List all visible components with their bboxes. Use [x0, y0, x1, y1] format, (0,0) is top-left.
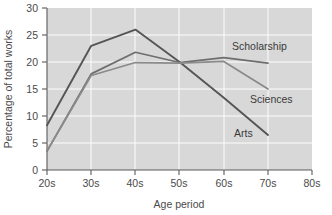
x-axis-title: Age period: [154, 198, 205, 210]
y-axis-title: Percentage of total works: [2, 30, 14, 148]
x-tick-label-20s: 20s: [39, 177, 56, 189]
y-tick-label-25: 25: [26, 29, 38, 41]
x-tick-label-70s: 70s: [260, 177, 277, 189]
series-label-arts: Arts: [234, 127, 253, 139]
y-axis-ticks: [42, 8, 47, 170]
y-tick-label-10: 10: [26, 110, 38, 122]
x-axis-ticks: [47, 170, 312, 175]
series-label-sciences: Sciences: [250, 93, 293, 105]
line-chart: 30 25 20 15 10 5 0 20s 30s 40s 50s 60s 7…: [0, 0, 332, 215]
y-tick-label-20: 20: [26, 56, 38, 68]
y-tick-label-30: 30: [26, 2, 38, 14]
x-tick-label-40s: 40s: [127, 177, 144, 189]
y-tick-label-0: 0: [32, 164, 38, 176]
series-label-scholarship: Scholarship: [232, 40, 287, 52]
x-tick-label-80s: 80s: [304, 177, 321, 189]
chart-container: 30 25 20 15 10 5 0 20s 30s 40s 50s 60s 7…: [0, 0, 332, 215]
y-tick-label-5: 5: [32, 137, 38, 149]
x-tick-label-30s: 30s: [83, 177, 100, 189]
x-tick-label-50s: 50s: [171, 177, 188, 189]
x-tick-label-60s: 60s: [216, 177, 233, 189]
y-tick-label-15: 15: [26, 83, 38, 95]
